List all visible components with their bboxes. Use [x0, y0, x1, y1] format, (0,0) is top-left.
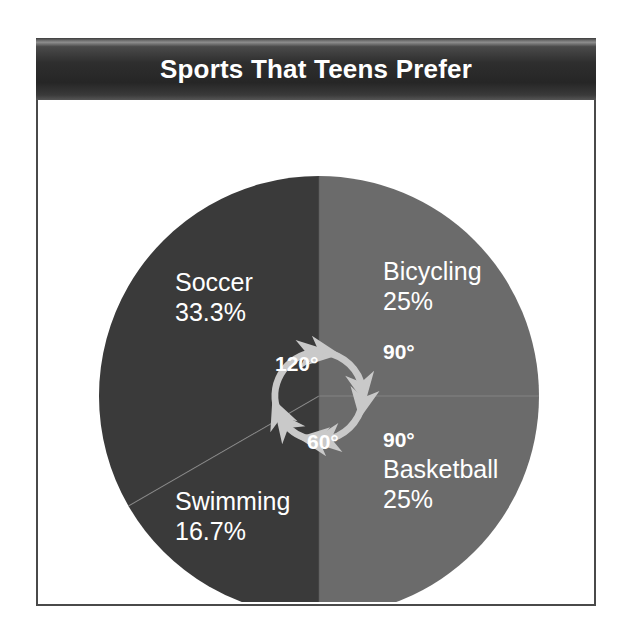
slice-label-swimming: Swimming 16.7%	[175, 487, 290, 546]
figure-frame: Sports That Teens Prefer	[36, 38, 596, 606]
slice-label-basketball-percent: 25%	[383, 485, 498, 515]
angle-label-bicycling: 90°	[383, 341, 415, 362]
slice-label-bicycling-name: Bicycling	[383, 257, 482, 285]
chart-title-bar: Sports That Teens Prefer	[36, 38, 596, 100]
slice-label-soccer-percent: 33.3%	[175, 298, 253, 328]
slice-label-basketball: Basketball 25%	[383, 455, 498, 514]
pie-chart-svg	[38, 100, 594, 602]
slice-label-swimming-percent: 16.7%	[175, 517, 290, 547]
angle-label-soccer: 120°	[275, 353, 318, 374]
angle-label-basketball: 90°	[383, 429, 415, 450]
slice-label-soccer: Soccer 33.3%	[175, 268, 253, 327]
slice-label-bicycling-percent: 25%	[383, 287, 482, 317]
slice-label-soccer-name: Soccer	[175, 268, 253, 296]
slice-label-basketball-name: Basketball	[383, 455, 498, 483]
slice-label-bicycling: Bicycling 25%	[383, 257, 482, 316]
chart-plot-area: Soccer 33.3% Bicycling 25% Basketball 25…	[36, 100, 596, 606]
slice-label-swimming-name: Swimming	[175, 487, 290, 515]
page-title: Sports That Teens Prefer	[160, 56, 472, 82]
angle-label-swimming: 60°	[307, 431, 339, 452]
